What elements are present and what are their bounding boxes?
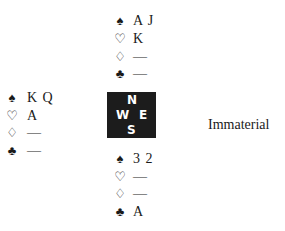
club-icon: ♣: [5, 142, 19, 159]
heart-icon: ♡: [113, 30, 127, 47]
club-icon: ♣: [113, 203, 127, 220]
diamond-icon: ♢: [113, 48, 127, 65]
south-spades-cards: 3 2: [133, 150, 154, 167]
spade-icon: ♠: [5, 89, 19, 106]
west-clubs-cards: —: [27, 142, 42, 159]
west-spades-cards: K Q: [27, 89, 54, 106]
north-clubs-cards: —: [133, 65, 148, 82]
heart-icon: ♡: [5, 107, 19, 124]
compass-south: S: [127, 124, 136, 136]
west-hearts-cards: A: [27, 107, 38, 124]
compass-north: N: [127, 94, 137, 106]
north-spades-cards: A J: [133, 12, 154, 29]
compass-box: N W E S: [107, 92, 156, 138]
north-diamonds-cards: —: [133, 48, 148, 65]
south-hearts-cards: —: [133, 168, 148, 185]
compass-west: W: [116, 109, 129, 121]
south-clubs-cards: A: [133, 203, 144, 220]
diamond-icon: ♢: [113, 185, 127, 202]
compass-east: E: [139, 109, 147, 121]
spade-icon: ♠: [113, 150, 127, 167]
west-diamonds-cards: —: [27, 124, 42, 141]
east-hand-label: Immaterial: [208, 117, 269, 133]
south-diamonds-cards: —: [133, 185, 148, 202]
club-icon: ♣: [113, 65, 127, 82]
north-hearts-cards: K: [133, 30, 144, 47]
heart-icon: ♡: [113, 168, 127, 185]
spade-icon: ♠: [113, 12, 127, 29]
diamond-icon: ♢: [5, 124, 19, 141]
